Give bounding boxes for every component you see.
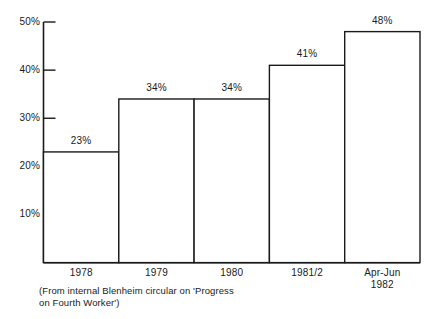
chart-page: 10%20%30%40%50% 23%34%34%41%48% 19781979… — [0, 0, 441, 319]
y-axis-tick-label: 40% — [6, 65, 40, 75]
x-axis-category-label: 1980 — [194, 267, 269, 279]
x-axis-category-label: 1981/2 — [269, 267, 344, 279]
bar[interactable] — [345, 32, 420, 263]
y-axis-tick-label: 20% — [6, 161, 40, 171]
bar-chart: 10%20%30%40%50% 23%34%34%41%48% 19781979… — [0, 0, 441, 319]
y-axis-tick-label: 10% — [6, 209, 40, 219]
chart-caption: (From internal Blenheim circular on 'Pro… — [39, 285, 339, 309]
bar-value-label: 34% — [194, 83, 269, 93]
bar-value-label: 34% — [119, 83, 194, 93]
y-axis-tick-label: 50% — [6, 17, 40, 27]
bar[interactable] — [269, 65, 344, 262]
bar-outlines — [44, 32, 421, 263]
y-axis-tick-label: 30% — [6, 113, 40, 123]
bar-value-label: 48% — [345, 16, 420, 26]
bar[interactable] — [44, 152, 119, 263]
bar-value-label: 23% — [44, 136, 119, 146]
y-axis-tick-labels: 10%20%30%40%50% — [4, 0, 40, 319]
x-axis-category-label: 1978 — [44, 267, 119, 279]
bar-value-label: 41% — [269, 49, 344, 59]
bar[interactable] — [119, 99, 194, 263]
x-axis-category-label: 1979 — [119, 267, 194, 279]
x-axis-category-label: Apr-Jun 1982 — [345, 267, 420, 290]
bar[interactable] — [194, 99, 269, 263]
